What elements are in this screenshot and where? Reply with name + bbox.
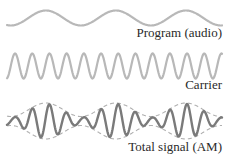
am-total-signal-wave bbox=[7, 104, 222, 137]
program-audio-label: Program (audio) bbox=[136, 26, 222, 39]
carrier-label: Carrier bbox=[185, 78, 222, 91]
carrier-wave bbox=[7, 54, 222, 79]
total-signal-am-label: Total signal (AM) bbox=[128, 140, 222, 153]
program-audio-wave bbox=[7, 11, 222, 26]
